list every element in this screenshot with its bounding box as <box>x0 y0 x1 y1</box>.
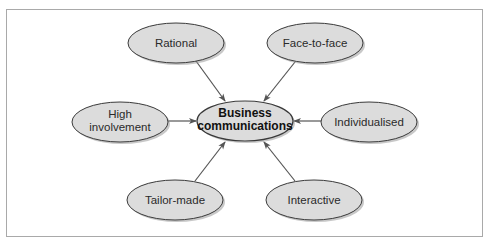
center-label-line1: Business <box>218 106 272 120</box>
node-label-face-to-face: Face-to-face <box>283 37 348 49</box>
node-label-tailor-made: Tailor-made <box>145 194 205 206</box>
node-label-rational: Rational <box>155 37 197 49</box>
node-interactive: Interactive <box>266 180 364 222</box>
node-label-individualised: Individualised <box>334 116 404 128</box>
center-label-line2: communications <box>197 119 293 133</box>
arrow-interactive-to-center <box>264 142 295 181</box>
node-business-communications: Business communications <box>197 101 295 143</box>
node-high-involvement: High involvement <box>72 102 170 144</box>
arrow-face-to-face-to-center <box>264 62 295 101</box>
node-face-to-face: Face-to-face <box>267 23 365 65</box>
node-rational: Rational <box>128 23 226 65</box>
arrow-rational-to-center <box>196 61 225 101</box>
node-label-high-involvement-line2: involvement <box>89 121 151 133</box>
diagram-canvas: Rational Face-to-face High involvement B… <box>0 0 491 245</box>
arrow-tailor-made-to-center <box>195 142 225 181</box>
node-label-interactive: Interactive <box>287 194 340 206</box>
node-tailor-made: Tailor-made <box>127 180 225 222</box>
node-individualised: Individualised <box>321 102 419 144</box>
node-label-high-involvement-line1: High <box>108 108 132 120</box>
